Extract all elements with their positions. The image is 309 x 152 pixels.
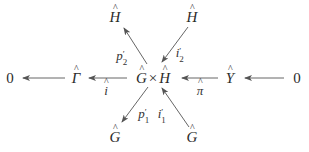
label-p1-prime: p′1: [138, 107, 152, 120]
p2-subscript: 2: [123, 58, 128, 67]
label-pi-hat: π: [197, 84, 204, 97]
node-h-hat-top-left: H: [110, 10, 121, 25]
node-g-hat-bottom-right: G: [187, 130, 198, 145]
y-hat-symbol: Y: [226, 71, 234, 86]
node-zero-left: 0: [6, 71, 14, 86]
i2-subscript: 2: [179, 55, 184, 64]
node-y-hat: Y: [226, 71, 234, 86]
h-hat-top-right-symbol: H: [187, 10, 198, 25]
node-zero-right: 0: [293, 71, 301, 86]
gamma-hat-symbol: Γ: [72, 71, 81, 86]
node-h-hat-top-right: H: [187, 10, 198, 25]
product-h-hat: H: [159, 71, 170, 86]
p1-subscript: 1: [145, 116, 150, 125]
h-hat-top-left-symbol: H: [110, 10, 121, 25]
g-hat-bottom-right-symbol: G: [187, 130, 198, 145]
label-i-hat: i: [104, 84, 108, 97]
label-i1-prime: i′1: [158, 107, 169, 120]
times-operator: ×: [149, 70, 157, 86]
product-g-hat: G: [136, 71, 147, 86]
commutative-diagram: 0 Γ G×H Y 0 H H G G i π p′2 i′2 p′1 i′1: [0, 0, 309, 152]
node-product-g-h: G×H: [136, 71, 170, 86]
node-g-hat-bottom-left: G: [110, 130, 121, 145]
i-hat-symbol: i: [104, 84, 108, 97]
label-p2-prime: p′2: [116, 49, 130, 62]
pi-hat-symbol: π: [197, 84, 204, 97]
label-i2-prime: i′2: [176, 46, 187, 59]
i1-subscript: 1: [161, 116, 166, 125]
node-gamma-hat: Γ: [72, 71, 81, 86]
g-hat-bottom-left-symbol: G: [110, 130, 121, 145]
